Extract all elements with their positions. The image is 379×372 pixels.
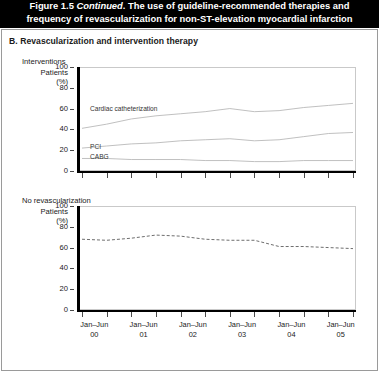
y-tick — [70, 206, 74, 207]
x-tick — [254, 312, 255, 317]
x-axis-label-year: 03 — [215, 330, 269, 340]
x-tick — [230, 173, 231, 178]
y-tick-label: 40 — [42, 124, 68, 133]
y-tick-label: 100 — [42, 62, 68, 71]
x-axis-label: Jan–Jun02 — [166, 320, 220, 339]
x-tick — [279, 312, 280, 317]
x-axis-label: Jan–Jun04 — [264, 320, 318, 339]
x-tick — [328, 173, 329, 178]
line-plot-no-revascularization — [79, 207, 356, 310]
y-tick — [70, 310, 74, 311]
y-tick-label: 60 — [42, 104, 68, 113]
x-tick — [205, 173, 206, 178]
series-line-cabg — [82, 158, 353, 161]
y-tick-label: 0 — [42, 166, 68, 175]
x-axis-label-period: Jan–Jun — [67, 320, 121, 330]
x-tick — [82, 312, 83, 317]
y-tick-label: 0 — [42, 305, 68, 314]
figure-title-bar: Figure 1.5 Continued. The use of guideli… — [0, 0, 379, 28]
x-tick — [205, 312, 206, 317]
plot-area-interventions — [79, 67, 356, 171]
x-axis-label-year: 01 — [117, 330, 171, 340]
x-tick — [304, 312, 305, 317]
x-tick — [304, 173, 305, 178]
x-tick — [230, 312, 231, 317]
y-tick — [70, 268, 74, 269]
x-axis-label: Jan–Jun05 — [314, 320, 368, 339]
x-tick — [107, 312, 108, 317]
x-tick — [353, 312, 354, 317]
y-tick — [70, 171, 74, 172]
y-tick-label: 80 — [42, 222, 68, 231]
y-tick-label: 100 — [42, 201, 68, 210]
x-axis-no-revascularization — [77, 310, 356, 312]
y-tick-label: 20 — [42, 145, 68, 154]
line-plot-interventions — [79, 68, 356, 171]
y-axis-interventions — [77, 67, 80, 172]
series-label-pci: PCI — [90, 143, 101, 150]
x-axis-label-period: Jan–Jun — [215, 320, 269, 330]
series-label-cardiac-catheterization: Cardiac catheterization — [90, 105, 157, 112]
x-axis-label-period: Jan–Jun — [264, 320, 318, 330]
chart-interventions: 020406080100 Cardiac catheterizationPCIC… — [74, 67, 356, 182]
x-tick — [353, 173, 354, 178]
figure-title-rest: . The use of guideline-recommended thera… — [123, 0, 350, 11]
x-axis-label-year: 00 — [67, 330, 121, 340]
y-tick-label: 80 — [42, 83, 68, 92]
x-tick — [181, 312, 182, 317]
series-label-cabg: CABG — [90, 153, 109, 160]
figure-continued-word: Continued — [76, 0, 122, 11]
y-tick-label: 40 — [42, 263, 68, 272]
plot-area-no-revascularization — [79, 206, 356, 310]
x-tick — [328, 312, 329, 317]
y-tick — [70, 109, 74, 110]
x-axis-interventions — [77, 171, 356, 173]
x-tick — [131, 173, 132, 178]
y-tick-label: 60 — [42, 243, 68, 252]
x-tick — [279, 173, 280, 178]
x-axis-label-period: Jan–Jun — [166, 320, 220, 330]
series-line-pci — [82, 132, 353, 148]
y-tick-label: 20 — [42, 284, 68, 293]
y-tick — [70, 248, 74, 249]
figure-title-line-1: Figure 1.5 Continued. The use of guideli… — [30, 0, 350, 12]
series-line-no-revascularization — [82, 235, 353, 249]
panel-label: B. Revascularization and intervention th… — [9, 36, 198, 46]
x-axis-label-period: Jan–Jun — [314, 320, 368, 330]
x-axis-label: Jan–Jun00 — [67, 320, 121, 339]
y-tick — [70, 67, 74, 68]
x-tick — [156, 312, 157, 317]
x-axis-label: Jan–Jun03 — [215, 320, 269, 339]
x-tick — [107, 173, 108, 178]
x-tick — [131, 312, 132, 317]
y-tick — [70, 150, 74, 151]
figure-title-line-2: frequency of revascularization for non-S… — [26, 12, 352, 25]
x-axis-label-year: 02 — [166, 330, 220, 340]
chart-no-revascularization: 020406080100 Jan–Jun00Jan–Jun01Jan–Jun02… — [74, 206, 356, 321]
x-axis-label: Jan–Jun01 — [117, 320, 171, 339]
figure-number: Figure 1.5 — [30, 0, 77, 11]
x-tick — [254, 173, 255, 178]
x-axis-label-year: 05 — [314, 330, 368, 340]
x-axis-label-period: Jan–Jun — [117, 320, 171, 330]
x-tick — [156, 173, 157, 178]
y-tick — [70, 227, 74, 228]
y-tick — [70, 88, 74, 89]
x-axis-label-year: 04 — [264, 330, 318, 340]
y-axis-no-revascularization — [77, 206, 80, 311]
x-tick — [181, 173, 182, 178]
y-tick — [70, 129, 74, 130]
x-tick — [82, 173, 83, 178]
y-tick — [70, 289, 74, 290]
